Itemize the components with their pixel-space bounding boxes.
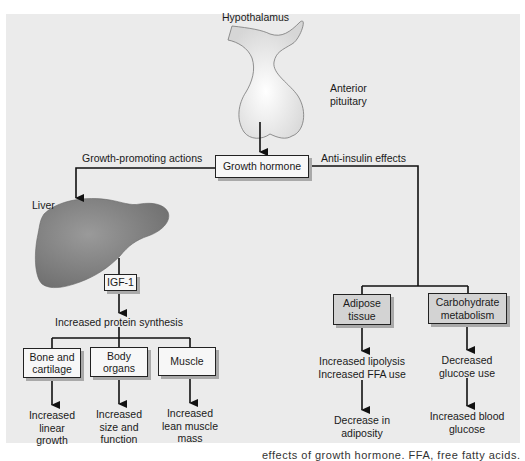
box-line: Bone and [30, 351, 75, 364]
box-line: tissue [348, 310, 375, 323]
carbo-final: Increased bloodglucose [417, 410, 517, 435]
adipose-tissue-box: Adipose tissue [333, 294, 391, 325]
body-organs-box: Body organs [90, 347, 148, 377]
carbo-effect: Decreasedglucose use [422, 354, 512, 379]
figure-caption-partial: effects of growth hormone. FFA, free fat… [262, 449, 520, 461]
growth-hormone-box: Growth hormone [215, 155, 309, 178]
liver-illustration [35, 199, 168, 288]
box-line: Body [107, 350, 131, 363]
box-line: cartilage [32, 363, 72, 376]
effect-organs: Increasedsize andfunction [84, 408, 154, 446]
effect-bone: Increasedlineargrowth [17, 409, 87, 447]
box-line: Muscle [170, 355, 203, 368]
protein-synthesis-label: Increased protein synthesis [44, 316, 194, 329]
growth-hormone-label: Growth hormone [223, 160, 301, 173]
liver-label: Liver [32, 199, 55, 212]
igf1-box: IGF-1 [104, 274, 137, 291]
pituitary-illustration [228, 21, 304, 138]
anterior-pituitary-label-line2: pituitary [330, 95, 367, 108]
igf1-label: IGF-1 [107, 276, 134, 289]
box-line: Adipose [343, 297, 381, 310]
anterior-pituitary-label-line1: Anterior [330, 82, 367, 95]
effect-muscle: Increasedlean musclemass [152, 407, 228, 445]
box-line: organs [103, 362, 135, 375]
box-line: Carbohydrate [436, 296, 500, 309]
box-line: metabolism [441, 309, 495, 322]
anti-insulin-label: Anti-insulin effects [321, 152, 406, 165]
carbohydrate-metabolism-box: Carbohydrate metabolism [428, 293, 507, 324]
adipose-final: Decrease inadiposity [317, 414, 407, 439]
muscle-box: Muscle [158, 347, 216, 376]
bone-cartilage-box: Bone and cartilage [23, 348, 81, 378]
adipose-effect: Increased lipolysisIncreased FFA use [312, 355, 412, 380]
hypothalamus-label: Hypothalamus [222, 11, 289, 24]
growth-promoting-label: Growth-promoting actions [82, 152, 202, 165]
